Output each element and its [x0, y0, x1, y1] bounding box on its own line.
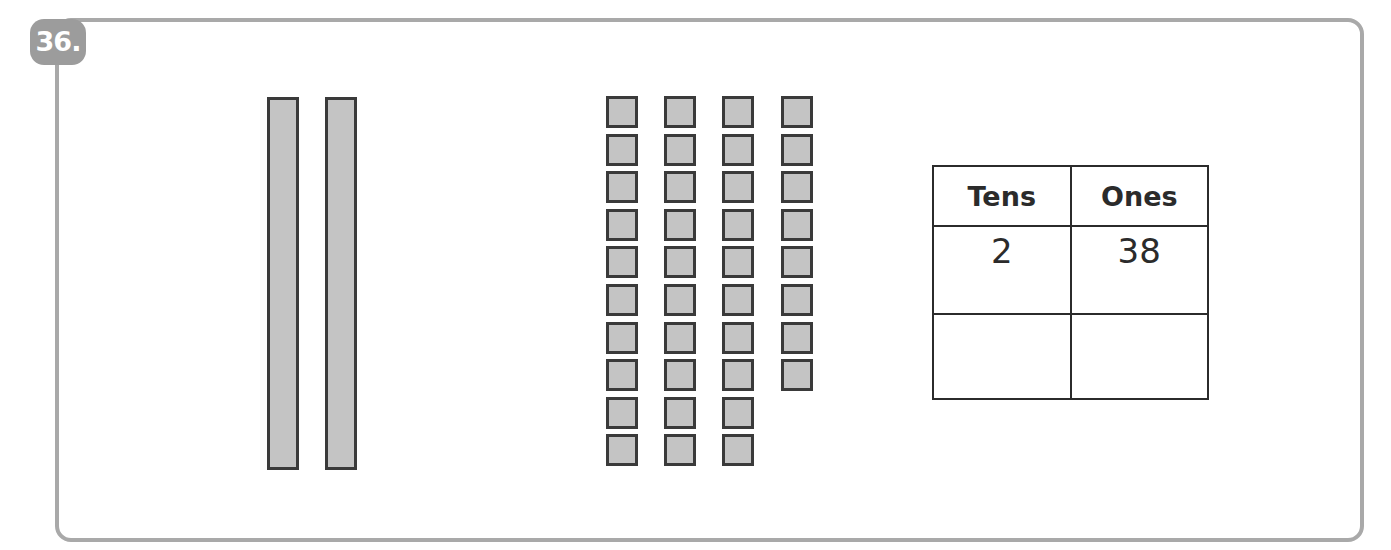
problem-number-badge: 36.: [30, 19, 86, 65]
ones-cube: [781, 246, 813, 278]
cell-ones-answer[interactable]: [1071, 314, 1209, 399]
ones-cube: [664, 284, 696, 316]
cell-tens-answer[interactable]: [933, 314, 1071, 399]
place-value-table: Tens Ones 2 38: [932, 165, 1209, 400]
ones-cube: [606, 359, 638, 391]
ones-cube: [606, 134, 638, 166]
ones-cube: [781, 322, 813, 354]
ones-cube: [664, 246, 696, 278]
ones-cube: [722, 134, 754, 166]
ones-cube: [664, 434, 696, 466]
ones-cube: [606, 209, 638, 241]
header-tens: Tens: [933, 166, 1071, 226]
ones-cube: [664, 96, 696, 128]
ones-cube: [781, 209, 813, 241]
ones-cube: [664, 209, 696, 241]
ones-cube: [606, 171, 638, 203]
ones-cube: [664, 397, 696, 429]
ones-cube: [664, 171, 696, 203]
table-row: [933, 314, 1208, 399]
ones-cube: [606, 284, 638, 316]
ones-cube: [606, 96, 638, 128]
ones-cube: [722, 171, 754, 203]
ones-cube: [664, 359, 696, 391]
ones-cube: [606, 397, 638, 429]
ones-cube: [606, 322, 638, 354]
ones-cube: [781, 359, 813, 391]
ones-cube: [722, 209, 754, 241]
ones-cube: [722, 322, 754, 354]
header-ones: Ones: [1071, 166, 1209, 226]
tens-rod: [267, 97, 299, 470]
cell-ones-value: 38: [1071, 226, 1209, 314]
tens-rod: [325, 97, 357, 470]
ones-cube: [722, 284, 754, 316]
ones-cube: [664, 322, 696, 354]
ones-cube: [664, 134, 696, 166]
ones-cube: [606, 246, 638, 278]
ones-cube: [781, 284, 813, 316]
cell-tens-value: 2: [933, 226, 1071, 314]
ones-cube: [781, 134, 813, 166]
ones-cube: [606, 434, 638, 466]
table-row: 2 38: [933, 226, 1208, 314]
ones-cube: [722, 96, 754, 128]
ones-cube: [722, 246, 754, 278]
ones-cube: [781, 96, 813, 128]
ones-cube: [722, 434, 754, 466]
ones-cube: [722, 397, 754, 429]
ones-cube: [722, 359, 754, 391]
table-header-row: Tens Ones: [933, 166, 1208, 226]
ones-cube: [781, 171, 813, 203]
